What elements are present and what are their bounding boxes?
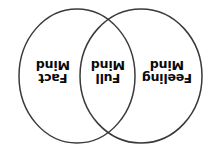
venn-label-intersection: Full Mind [86, 58, 130, 84]
venn-label-intersection-line-1: Full [86, 71, 130, 84]
venn-label-intersection-line-2: Mind [86, 58, 130, 71]
venn-label-left-line-1: Fact [24, 71, 82, 84]
venn-diagram: Fact Mind Full Mind Feeling Mind [0, 0, 216, 155]
venn-label-left-line-2: Mind [24, 58, 82, 71]
venn-label-right-line-1: Feeling [134, 71, 200, 84]
venn-label-right-set: Feeling Mind [134, 58, 200, 84]
venn-label-right-line-2: Mind [134, 58, 200, 71]
venn-label-left-set: Fact Mind [24, 58, 82, 84]
